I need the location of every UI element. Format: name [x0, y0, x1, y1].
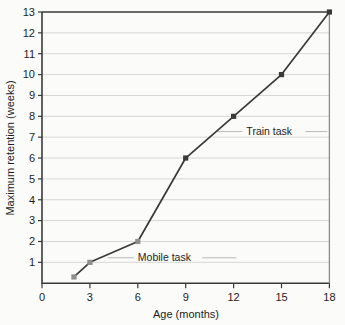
y-tick-label: 6 — [29, 152, 35, 164]
line-chart: 12345678910111213 0369121518 Mobile task… — [0, 0, 345, 325]
y-tick-label: 9 — [29, 89, 35, 101]
annotation-label: Train task — [246, 125, 292, 137]
y-tick-label: 11 — [24, 48, 35, 60]
x-tick-label: 0 — [39, 291, 45, 303]
x-tick-label: 15 — [275, 291, 287, 303]
data-point-marker — [87, 260, 92, 265]
x-tick-label: 6 — [135, 291, 141, 303]
data-point-marker — [135, 239, 140, 244]
y-tick-label: 7 — [29, 131, 35, 143]
y-tick-label: 12 — [23, 27, 35, 39]
y-tick-label: 8 — [29, 110, 35, 122]
y-tick-label: 2 — [29, 235, 35, 247]
annotation-label: Mobile task — [138, 251, 192, 263]
y-tick-label: 3 — [29, 214, 35, 226]
data-point-marker — [183, 155, 188, 160]
chart-figure: 12345678910111213 0369121518 Mobile task… — [0, 0, 345, 325]
y-tick-label: 1 — [29, 256, 35, 268]
x-tick-label: 9 — [183, 291, 189, 303]
y-tick-label: 4 — [29, 194, 35, 206]
x-axis-title: Age (months) — [153, 308, 219, 320]
x-tick-label: 12 — [227, 291, 239, 303]
x-tick-label: 3 — [87, 291, 93, 303]
y-tick-label: 10 — [23, 68, 35, 80]
data-point-marker — [279, 72, 284, 77]
y-tick-label: 5 — [29, 173, 35, 185]
data-point-marker — [71, 274, 76, 279]
data-point-marker — [327, 9, 332, 14]
data-point-marker — [231, 114, 236, 119]
chart-background — [0, 0, 345, 325]
y-tick-label: 13 — [23, 6, 35, 18]
y-axis-title: Maximum retention (weeks) — [4, 80, 16, 215]
x-tick-label: 18 — [323, 291, 335, 303]
